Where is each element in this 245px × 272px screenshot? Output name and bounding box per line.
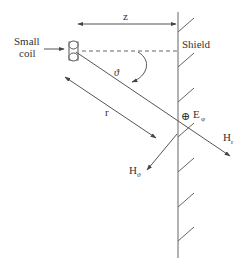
radius-r-arrow bbox=[65, 77, 156, 138]
e-field-label: E bbox=[193, 108, 200, 120]
h-theta-main: H bbox=[129, 164, 137, 176]
h-r-main: H bbox=[223, 131, 231, 143]
h-r-label: H r bbox=[223, 131, 234, 146]
h-theta-subscript: ϑ bbox=[137, 171, 141, 179]
coil-shield-diagram: Small coil Shield z ϑ r ⊕ E φ H r H ϑ bbox=[0, 0, 245, 272]
angle-label: ϑ bbox=[114, 67, 120, 78]
e-field-subscript: φ bbox=[201, 115, 205, 123]
coil-icon bbox=[69, 41, 78, 61]
shield-label: Shield bbox=[182, 38, 211, 50]
e-field-direction-symbol: ⊕ bbox=[181, 110, 190, 122]
distance-z-label: z bbox=[123, 10, 128, 22]
radial-line-hr-arrow bbox=[76, 52, 230, 156]
h-theta-label: H ϑ bbox=[129, 164, 141, 179]
h-theta-arrow bbox=[147, 134, 177, 170]
coil-label-line2: coil bbox=[19, 47, 36, 59]
e-phi-label: ⊕ E φ bbox=[181, 108, 205, 123]
coil-label-line1: Small bbox=[14, 35, 40, 47]
angle-arc-arrow bbox=[132, 52, 147, 82]
h-r-subscript: r bbox=[231, 138, 234, 146]
radius-label: r bbox=[105, 106, 109, 118]
